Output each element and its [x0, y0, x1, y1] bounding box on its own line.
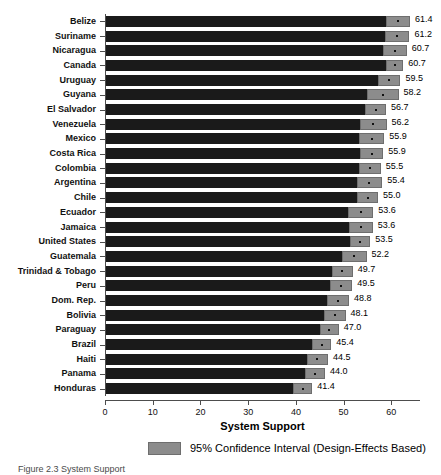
legend-swatch-ci: [148, 442, 181, 455]
y-axis-tick: [100, 315, 105, 316]
x-axis-tick-label: 20: [185, 407, 215, 418]
y-axis-tick: [100, 389, 105, 390]
confidence-interval-box: [324, 310, 346, 321]
y-axis-tick: [100, 256, 105, 257]
bar: [105, 310, 335, 321]
x-axis-tick-label: 10: [138, 407, 168, 418]
point-estimate-marker: [337, 300, 339, 302]
point-estimate-marker: [372, 123, 374, 125]
bar: [105, 207, 361, 218]
bar-value-label: 61.4: [415, 14, 433, 25]
point-estimate-marker: [321, 344, 323, 346]
bar-value-label: 60.7: [408, 58, 426, 69]
point-estimate-marker: [382, 94, 384, 96]
y-axis-tick: [100, 374, 105, 375]
x-axis-tick-label: 60: [376, 407, 406, 418]
legend-label-ci: 95% Confidence Interval (Design-Effects …: [190, 441, 426, 455]
bar-value-label: 55.9: [389, 131, 407, 142]
point-estimate-marker: [371, 138, 373, 140]
y-axis-category-label: Haiti: [0, 354, 96, 365]
x-axis-title: System Support: [105, 420, 420, 432]
y-axis-line: [105, 14, 106, 396]
bar: [105, 75, 389, 86]
confidence-interval-box: [386, 60, 403, 71]
confidence-interval-box: [320, 324, 339, 335]
y-axis-category-label: Ecuador: [0, 207, 96, 218]
figure-caption: Figure 2.3 System Support: [18, 464, 125, 475]
y-axis-tick: [100, 183, 105, 184]
y-axis-tick: [100, 21, 105, 22]
y-axis-category-label: Colombia: [0, 163, 96, 174]
confidence-interval-box: [386, 16, 410, 27]
y-axis-tick: [100, 80, 105, 81]
bar-value-label: 61.2: [415, 29, 433, 40]
confidence-interval-box: [305, 368, 325, 379]
y-axis-category-label: Dom. Rep.: [0, 295, 96, 306]
bar: [105, 60, 395, 71]
bar: [105, 163, 370, 174]
bar-value-label: 53.6: [378, 220, 396, 231]
y-axis-category-label: El Salvador: [0, 104, 96, 115]
confidence-interval-box: [360, 148, 383, 159]
bar-value-label: 49.5: [357, 278, 375, 289]
x-axis-tick: [391, 400, 392, 405]
point-estimate-marker: [368, 182, 370, 184]
y-axis-category-label: Panama: [0, 368, 96, 379]
bar-value-label: 49.7: [358, 264, 376, 275]
point-estimate-marker: [397, 20, 399, 22]
confidence-interval-box: [383, 45, 407, 56]
y-axis-category-label: Belize: [0, 16, 96, 27]
x-axis-tick: [153, 400, 154, 405]
y-axis-tick: [100, 110, 105, 111]
y-axis-tick: [100, 359, 105, 360]
bar-value-label: 58.2: [404, 87, 422, 98]
bar-value-label: 44.0: [330, 366, 348, 377]
y-axis-tick: [100, 168, 105, 169]
confidence-interval-box: [349, 222, 373, 233]
confidence-interval-box: [293, 383, 312, 394]
bar: [105, 31, 397, 42]
confidence-interval-box: [330, 280, 352, 291]
point-estimate-marker: [371, 153, 373, 155]
x-axis-tick-label: 0: [90, 407, 120, 418]
bar: [105, 368, 315, 379]
bar-value-label: 47.0: [344, 322, 362, 333]
point-estimate-marker: [367, 197, 369, 199]
confidence-interval-box: [307, 354, 328, 365]
bar: [105, 295, 338, 306]
y-axis-tick: [100, 139, 105, 140]
y-axis-category-label: Venezuela: [0, 119, 96, 130]
y-axis-tick: [100, 227, 105, 228]
y-axis-category-label: Paraguay: [0, 324, 96, 335]
bar-value-label: 55.5: [386, 161, 404, 172]
bar: [105, 192, 368, 203]
point-estimate-marker: [360, 211, 362, 213]
y-axis-category-label: Uruguay: [0, 75, 96, 86]
bar: [105, 339, 322, 350]
y-axis-tick: [100, 271, 105, 272]
y-axis-category-label: Trinidad & Tobago: [0, 266, 96, 277]
bar: [105, 45, 395, 56]
y-axis-tick: [100, 36, 105, 37]
confidence-interval-box: [365, 104, 386, 115]
y-axis-tick: [100, 51, 105, 52]
point-estimate-marker: [314, 373, 316, 375]
bar: [105, 236, 360, 247]
bar: [105, 89, 383, 100]
bar-value-label: 48.1: [351, 308, 369, 319]
bar-value-label: 55.4: [387, 175, 405, 186]
bar: [105, 266, 342, 277]
bar: [105, 177, 369, 188]
x-axis-tick-label: 40: [281, 407, 311, 418]
point-estimate-marker: [394, 64, 396, 66]
bar-value-label: 53.5: [375, 234, 393, 245]
y-axis-tick: [100, 212, 105, 213]
x-axis-tick: [248, 400, 249, 405]
chart-legend: 95% Confidence Interval (Design-Effects …: [0, 440, 441, 458]
point-estimate-marker: [359, 241, 361, 243]
confidence-interval-box: [350, 236, 370, 247]
y-axis-category-label: Brazil: [0, 339, 96, 350]
bar: [105, 133, 372, 144]
point-estimate-marker: [341, 270, 343, 272]
